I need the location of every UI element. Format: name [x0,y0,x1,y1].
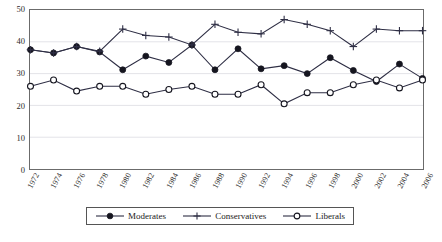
legend-item-conservatives: Conservatives [182,210,266,222]
x-axis-tick-label: 1998 [327,172,342,190]
x-axis-tick-label: 1984 [165,172,180,190]
x-axis-tick-label: 2004 [397,172,412,190]
x-axis-tick-label: 1974 [49,172,64,190]
data-point-marker [120,67,126,73]
x-axis-tick-label: 1992 [258,172,273,190]
data-point-marker [143,53,149,59]
data-point-marker [120,83,126,89]
y-axis-tick-label: 0 [21,166,29,175]
data-point-marker [420,77,426,83]
data-point-marker [350,67,356,73]
data-point-marker [143,91,149,97]
x-axis-tick-label: 1986 [188,172,203,190]
data-point-marker [396,61,402,67]
x-axis-tick-label: 1972 [26,172,41,190]
x-axis-tick-label: 1994 [281,172,296,190]
legend-item-moderates: Moderates [95,210,166,222]
legend-item-liberals: Liberals [282,210,345,222]
data-point-marker [304,71,310,77]
series-line [30,45,422,82]
data-point-marker [281,63,287,69]
y-axis-tick-label: 10 [17,134,30,143]
legend-label: Conservatives [214,211,266,221]
data-point-marker [258,82,264,88]
data-point-marker [295,213,301,219]
data-point-marker [212,91,218,97]
data-point-marker [396,85,402,91]
chart-figure: 01020304050 1972197419761978198019821984… [0,0,442,242]
data-point-marker [373,77,379,83]
data-point-marker [327,55,333,61]
legend-plus-icon [182,210,212,222]
y-axis-tick-label: 20 [17,101,30,110]
data-point-marker [166,60,172,66]
chart-legend: ModeratesConservativesLiberals [86,207,354,225]
x-axis-tick-label: 2000 [350,172,365,190]
x-axis-tick-label: 1996 [304,172,319,190]
x-axis-tick-label: 2002 [374,172,389,190]
x-axis-tick-label: 1990 [235,172,250,190]
data-point-marker [235,91,241,97]
data-point-marker [327,90,333,96]
x-axis-tick-label: 1988 [211,172,226,190]
series-line [30,20,422,53]
series-conservatives [27,16,427,57]
data-point-marker [281,101,287,107]
data-point-marker [97,83,103,89]
data-point-marker [189,83,195,89]
data-point-marker [74,88,80,94]
plot-area [29,9,424,170]
data-point-marker [51,77,57,83]
x-axis-tick-label: 1976 [72,172,87,190]
y-axis-tick-label: 30 [17,69,30,78]
data-point-marker [212,67,218,73]
legend-label: Liberals [314,211,345,221]
series-liberals [28,77,426,107]
y-axis-tick-label: 40 [17,37,30,46]
series-line [30,80,422,104]
x-axis-tick-labels: 1972197419761978198019821984198619881990… [29,172,424,206]
x-axis-tick-label: 2006 [420,172,435,190]
data-point-marker [350,82,356,88]
x-axis-tick-label: 1978 [96,172,111,190]
legend-label: Moderates [127,211,166,221]
data-point-marker [28,83,34,89]
y-axis-tick-label: 50 [17,5,30,14]
x-axis-tick-label: 1980 [119,172,134,190]
series-plot [30,10,423,169]
data-point-marker [235,46,241,52]
x-axis-tick-label: 1982 [142,172,157,190]
data-point-marker [107,213,113,219]
data-point-marker [166,87,172,93]
legend-filled-circle-icon [95,210,125,222]
legend-open-circle-icon [282,210,312,222]
data-point-marker [258,66,264,72]
data-point-marker [304,90,310,96]
